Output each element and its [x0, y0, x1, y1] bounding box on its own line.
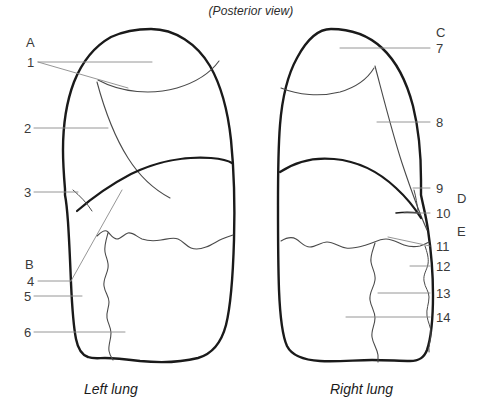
label-1: 1: [27, 56, 34, 69]
label-A: A: [26, 36, 35, 49]
left-lung-group: [63, 29, 234, 362]
label-C: C: [436, 26, 445, 39]
label-12: 12: [436, 260, 450, 273]
label-10: 10: [436, 207, 450, 220]
label-E: E: [457, 225, 466, 238]
left-lung-outline: [63, 29, 234, 362]
label-7: 7: [436, 42, 443, 55]
label-11: 11: [436, 240, 450, 253]
label-D: D: [457, 192, 466, 205]
lung-diagram-svg: [0, 0, 502, 409]
label-13: 13: [436, 287, 450, 300]
right-lung-outline: [278, 29, 433, 361]
label-5: 5: [24, 290, 31, 303]
label-14: 14: [436, 311, 450, 324]
label-3: 3: [24, 186, 31, 199]
lung-anatomy-figure: (Posterior view): [0, 0, 502, 409]
right-lung-group: [278, 29, 433, 362]
label-4: 4: [27, 275, 34, 288]
caption-right-lung: Right lung: [330, 381, 393, 397]
caption-left-lung: Left lung: [84, 381, 138, 397]
label-6: 6: [24, 326, 31, 339]
label-8: 8: [436, 116, 443, 129]
label-B: B: [25, 258, 34, 271]
label-9: 9: [436, 182, 443, 195]
label-2: 2: [24, 122, 31, 135]
